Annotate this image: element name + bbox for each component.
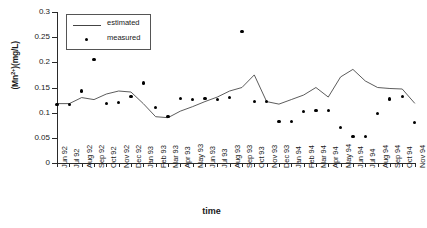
legend-dot-icon: [85, 38, 88, 41]
measured-point: [351, 135, 354, 138]
measured-point: [277, 120, 280, 123]
measured-point: [166, 115, 169, 118]
measured-point: [129, 95, 132, 98]
measured-point: [364, 135, 367, 138]
measured-point: [55, 103, 58, 106]
measured-point: [142, 81, 145, 84]
measured-point: [314, 109, 317, 112]
x-axis-title: time: [0, 206, 423, 216]
legend-line-icon: [73, 25, 101, 26]
legend-label-measured: measured: [107, 33, 140, 42]
measured-point: [253, 100, 256, 103]
measured-point: [203, 97, 206, 100]
legend-label-estimated: estimated: [107, 18, 140, 27]
measured-point: [240, 30, 243, 33]
chart-legend: estimated measured: [66, 14, 151, 50]
measured-point: [216, 98, 219, 101]
measured-point: [290, 120, 293, 123]
measured-point: [401, 95, 404, 98]
legend-item-measured: measured: [67, 33, 150, 48]
measured-point: [80, 89, 83, 92]
legend-item-estimated: estimated: [67, 18, 150, 33]
measured-point: [179, 97, 182, 100]
